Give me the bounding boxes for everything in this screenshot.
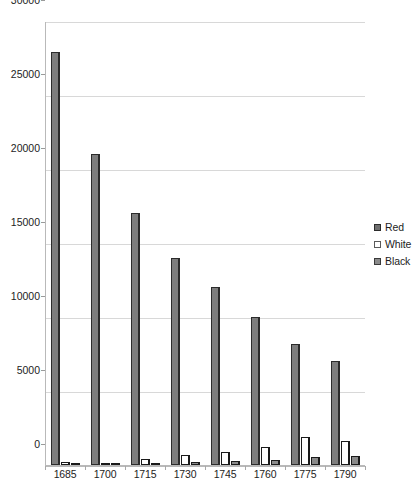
bar-red-1760[interactable] xyxy=(251,317,260,465)
y-tick-label-20000: 20000 xyxy=(0,143,40,153)
bar-red-1700[interactable] xyxy=(91,154,100,465)
legend-item-white[interactable]: White xyxy=(374,236,420,253)
bar-white-1775[interactable] xyxy=(301,437,310,465)
x-tick-label-1790: 1790 xyxy=(325,468,365,480)
x-tick-label-1745: 1745 xyxy=(205,468,245,480)
bar-group-1745 xyxy=(206,22,246,465)
y-axis: 050001000015000200002500030000 xyxy=(0,0,45,444)
bar-group-1715 xyxy=(126,22,166,465)
plot-area xyxy=(45,22,365,466)
bar-group-1760 xyxy=(245,22,285,465)
bar-red-1730[interactable] xyxy=(171,258,180,465)
x-tick-label-1775: 1775 xyxy=(285,468,325,480)
x-axis-labels: 16851700171517301745176017751790 xyxy=(45,468,365,480)
bar-red-1715[interactable] xyxy=(131,213,140,465)
bar-groups xyxy=(46,22,365,465)
x-tick-mark-7 xyxy=(365,466,366,470)
y-tick-label-0: 0 xyxy=(0,439,40,449)
legend-label-white: White xyxy=(385,239,411,250)
y-tick-label-25000: 25000 xyxy=(0,69,40,79)
x-tick-label-1760: 1760 xyxy=(245,468,285,480)
bar-white-1700[interactable] xyxy=(101,463,110,465)
legend-label-red: Red xyxy=(385,222,404,233)
bar-group-1790 xyxy=(325,22,365,465)
bar-group-1775 xyxy=(285,22,325,465)
bar-black-1700[interactable] xyxy=(111,463,120,465)
bar-group-1730 xyxy=(166,22,206,465)
bar-black-1790[interactable] xyxy=(351,456,360,465)
bar-black-1745[interactable] xyxy=(231,461,240,465)
y-tick-label-5000: 5000 xyxy=(0,365,40,375)
legend-item-black[interactable]: Black xyxy=(374,253,420,270)
bar-black-1685[interactable] xyxy=(71,463,80,465)
legend-swatch-black-icon xyxy=(374,258,381,265)
x-tick-label-1730: 1730 xyxy=(165,468,205,480)
bar-white-1730[interactable] xyxy=(181,455,190,465)
y-tick-label-15000: 15000 xyxy=(0,217,40,227)
bar-white-1745[interactable] xyxy=(221,452,230,465)
bar-red-1775[interactable] xyxy=(291,344,300,465)
x-tick-label-1715: 1715 xyxy=(125,468,165,480)
chart-legend: Red White Black xyxy=(374,219,420,270)
bar-red-1745[interactable] xyxy=(211,287,220,465)
bar-chart: 050001000015000200002500030000 168517001… xyxy=(0,0,420,500)
bar-red-1685[interactable] xyxy=(51,52,60,465)
legend-swatch-white-icon xyxy=(374,241,381,248)
bar-group-1700 xyxy=(86,22,126,465)
x-tick-label-1700: 1700 xyxy=(85,468,125,480)
x-tick-label-1685: 1685 xyxy=(45,468,85,480)
legend-item-red[interactable]: Red xyxy=(374,219,420,236)
bar-white-1715[interactable] xyxy=(141,459,150,465)
y-tick-label-30000: 30000 xyxy=(0,0,40,5)
legend-swatch-red-icon xyxy=(374,224,381,231)
y-tick-mark-30000 xyxy=(41,0,45,1)
bar-black-1730[interactable] xyxy=(191,462,200,465)
bar-white-1685[interactable] xyxy=(61,462,70,465)
bar-red-1790[interactable] xyxy=(331,361,340,465)
y-tick-label-10000: 10000 xyxy=(0,291,40,301)
bar-black-1760[interactable] xyxy=(271,460,280,465)
bar-white-1790[interactable] xyxy=(341,441,350,465)
bar-white-1760[interactable] xyxy=(261,447,270,465)
bar-black-1715[interactable] xyxy=(151,463,160,465)
legend-label-black: Black xyxy=(385,256,410,267)
bar-group-1685 xyxy=(46,22,86,465)
bar-black-1775[interactable] xyxy=(311,457,320,465)
